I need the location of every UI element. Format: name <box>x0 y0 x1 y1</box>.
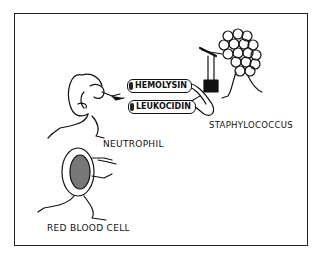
illustration <box>0 0 322 261</box>
leukocidin-toxin: LEUKOCIDIN <box>128 100 196 114</box>
red-blood-cell-label: RED BLOOD CELL <box>47 223 130 233</box>
neutrophil-figure <box>48 74 124 138</box>
neutrophil-label: NEUTROPHIL <box>103 139 164 149</box>
staphylococcus-label: STAPHYLOCOCCUS <box>209 120 293 130</box>
staphylococcus-figure <box>200 29 262 98</box>
red-blood-cell-figure <box>38 148 116 220</box>
hemolysin-toxin: HEMOLYSIN <box>127 79 192 93</box>
